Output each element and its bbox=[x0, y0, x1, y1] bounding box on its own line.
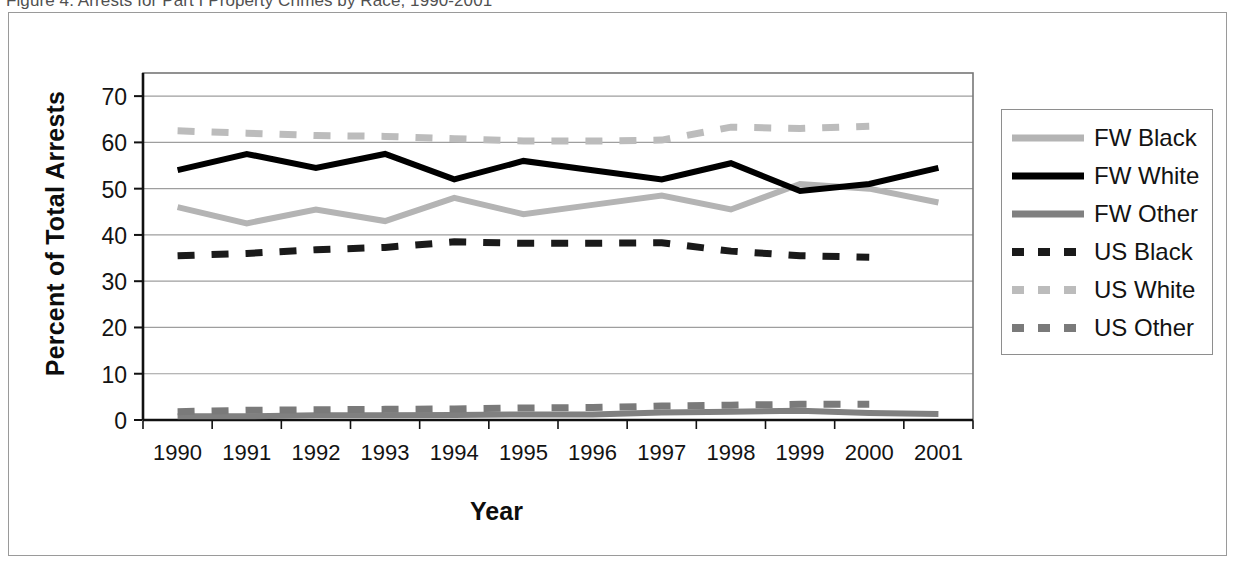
legend-swatch-icon bbox=[1011, 207, 1085, 221]
svg-text:1995: 1995 bbox=[499, 440, 548, 465]
y-tick-labels: 010203040506070 bbox=[101, 84, 127, 434]
svg-text:60: 60 bbox=[101, 130, 127, 156]
legend-item-us-white[interactable]: US White bbox=[1002, 271, 1212, 309]
svg-text:2001: 2001 bbox=[914, 440, 963, 465]
series-line-us-black bbox=[178, 242, 870, 257]
legend-label: FW White bbox=[1094, 164, 1199, 188]
svg-text:1994: 1994 bbox=[430, 440, 479, 465]
legend-swatch-icon bbox=[1011, 321, 1085, 335]
legend-swatch-icon bbox=[1011, 283, 1085, 297]
y-axis-title: Percent of Total Arrests bbox=[41, 84, 70, 384]
legend-swatch-icon bbox=[1011, 131, 1085, 145]
svg-text:1992: 1992 bbox=[291, 440, 340, 465]
gridlines bbox=[143, 96, 973, 420]
legend-label: US White bbox=[1094, 278, 1195, 302]
legend-item-us-other[interactable]: US Other bbox=[1002, 309, 1212, 347]
chart-legend: FW Black FW White FW Other US Black US W… bbox=[1001, 109, 1213, 355]
series-lines bbox=[178, 126, 939, 416]
svg-text:2000: 2000 bbox=[845, 440, 894, 465]
figure-caption: Figure 4. Arrests for Part I Property Cr… bbox=[0, 0, 1237, 9]
legend-item-us-black[interactable]: US Black bbox=[1002, 233, 1212, 271]
svg-text:1991: 1991 bbox=[222, 440, 271, 465]
svg-text:0: 0 bbox=[114, 408, 127, 434]
svg-text:1997: 1997 bbox=[637, 440, 686, 465]
figure-frame: 010203040506070 199019911992199319941995… bbox=[8, 12, 1227, 556]
x-axis-title: Year bbox=[9, 497, 984, 526]
legend-label: FW Black bbox=[1094, 126, 1197, 150]
svg-text:1996: 1996 bbox=[568, 440, 617, 465]
x-axis-ticks bbox=[143, 420, 973, 429]
x-tick-labels: 1990199119921993199419951996199719981999… bbox=[153, 440, 963, 465]
svg-text:30: 30 bbox=[101, 269, 127, 295]
svg-text:1999: 1999 bbox=[776, 440, 825, 465]
legend-item-fw-white[interactable]: FW White bbox=[1002, 157, 1212, 195]
svg-text:1998: 1998 bbox=[706, 440, 755, 465]
svg-text:1990: 1990 bbox=[153, 440, 202, 465]
svg-text:10: 10 bbox=[101, 362, 127, 388]
legend-label: FW Other bbox=[1094, 202, 1198, 226]
legend-label: US Other bbox=[1094, 316, 1194, 340]
legend-swatch-icon bbox=[1011, 169, 1085, 183]
figure-caption-strip: Figure 4. Arrests for Part I Property Cr… bbox=[0, 0, 1237, 9]
svg-text:50: 50 bbox=[101, 177, 127, 203]
legend-item-fw-other[interactable]: FW Other bbox=[1002, 195, 1212, 233]
legend-swatch-icon bbox=[1011, 245, 1085, 259]
svg-text:1993: 1993 bbox=[361, 440, 410, 465]
svg-text:20: 20 bbox=[101, 315, 127, 341]
svg-text:70: 70 bbox=[101, 84, 127, 110]
svg-text:40: 40 bbox=[101, 223, 127, 249]
legend-label: US Black bbox=[1094, 240, 1193, 264]
y-axis-ticks bbox=[134, 96, 143, 420]
series-line-us-white bbox=[178, 126, 870, 141]
chart-area: 010203040506070 199019911992199319941995… bbox=[9, 13, 1228, 557]
legend-item-fw-black[interactable]: FW Black bbox=[1002, 119, 1212, 157]
